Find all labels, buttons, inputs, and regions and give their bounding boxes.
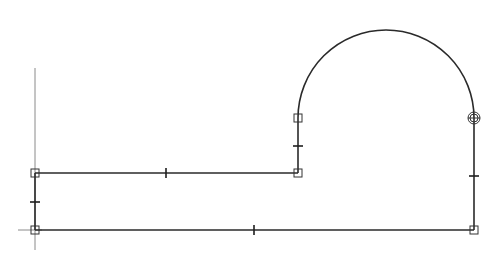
grip-circle-icon[interactable] — [468, 112, 480, 124]
arch-arc[interactable] — [298, 30, 474, 118]
midpoint-ticks — [30, 146, 479, 235]
polyline-segments[interactable] — [35, 118, 474, 230]
drawing-canvas[interactable] — [0, 0, 496, 258]
ucs-axes — [18, 68, 42, 250]
